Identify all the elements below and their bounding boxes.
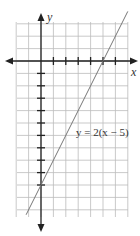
y-axis-label: y <box>46 10 53 24</box>
grid <box>16 22 128 217</box>
x-axis-label: x <box>130 65 137 79</box>
ticks <box>37 57 115 185</box>
x-axis-arrow-right-icon <box>130 58 138 65</box>
y-axis-arrow-up-icon <box>38 13 45 21</box>
line-chart: y x y = 2(x − 5) <box>0 0 140 236</box>
y-axis-arrow-down-icon <box>38 224 45 232</box>
x-axis-arrow-left-icon <box>5 58 13 65</box>
equation-label: y = 2(x − 5) <box>76 126 129 139</box>
